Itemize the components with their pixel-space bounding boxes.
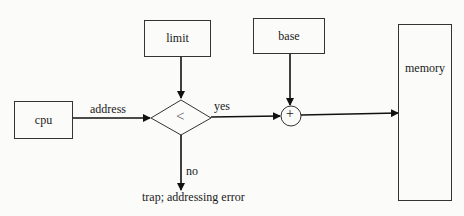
trap-label: trap; addressing error: [142, 190, 245, 204]
yes-label: yes: [214, 99, 230, 113]
compare-symbol: <: [176, 109, 184, 123]
yes-arrow: [211, 116, 280, 117]
limit-register: limit: [144, 20, 211, 57]
plus-symbol: +: [286, 107, 294, 121]
memory-label: memory: [405, 61, 445, 76]
no-label: no: [186, 164, 198, 178]
memory-arrow: [301, 113, 398, 115]
cpu-box: cpu: [14, 101, 73, 139]
limit-label: limit: [166, 31, 189, 46]
base-label: base: [278, 29, 299, 44]
base-register: base: [253, 18, 325, 54]
memory-box: memory: [398, 24, 452, 201]
cpu-label: cpu: [35, 113, 52, 128]
address-label: address: [90, 102, 126, 116]
